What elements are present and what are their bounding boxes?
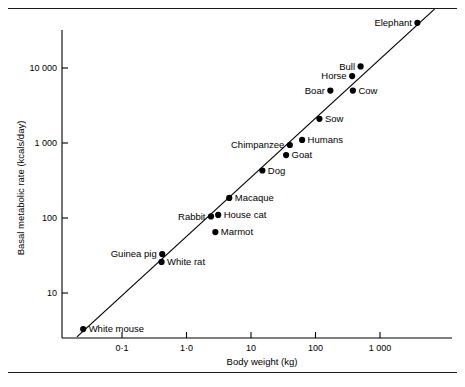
data-point-label: Horse [321, 70, 346, 81]
data-point-label: Boar [305, 85, 325, 96]
data-point-label: Dog [268, 165, 285, 176]
x-tick-label: 1 000 [369, 343, 392, 353]
data-point-label: Marmot [221, 226, 254, 237]
data-point: Boar [305, 85, 334, 96]
data-point-marker [226, 195, 232, 201]
data-point-label: White mouse [89, 323, 144, 334]
data-point: Goat [283, 149, 313, 160]
data-point: White rat [158, 256, 205, 267]
data-point-label: White rat [167, 256, 205, 267]
data-point-label: Bull [339, 61, 355, 72]
x-axis-title: Body weight (kg) [227, 356, 298, 367]
fit-line [77, 9, 435, 337]
data-point: Rabbit [178, 211, 214, 222]
data-point-label: Chimpanzee [231, 139, 284, 150]
x-tick-label: 0·1 [115, 343, 128, 353]
data-point-label: Sow [325, 113, 344, 124]
data-point-marker [159, 251, 165, 257]
y-tick-label: 10 [47, 288, 57, 298]
data-point-marker [158, 259, 164, 265]
data-point-label: Rabbit [178, 211, 206, 222]
y-axis-title: Basal metabolic rate (kcals/day) [15, 121, 26, 256]
data-point: Marmot [212, 226, 253, 237]
data-point-marker [283, 152, 289, 158]
data-point: Chimpanzee [231, 139, 293, 150]
data-point-marker [299, 137, 305, 143]
data-point-marker [259, 167, 265, 173]
data-point-marker [327, 87, 333, 93]
data-point-marker [80, 326, 86, 332]
x-tick-label: 10 [246, 343, 256, 353]
data-point-marker [208, 213, 214, 219]
figure-panel: 101001 00010 000 0·11·0101001 000 White … [0, 0, 465, 387]
data-point: White mouse [80, 323, 144, 334]
data-point: Cow [350, 85, 378, 96]
scatter-plot: 101001 00010 000 0·11·0101001 000 White … [0, 0, 465, 387]
data-point-marker [349, 73, 355, 79]
data-point: House cat [215, 209, 267, 220]
data-point-label: Goat [292, 149, 313, 160]
data-point-marker [350, 87, 356, 93]
data-point-marker [287, 142, 293, 148]
y-tick-label: 10 000 [29, 63, 57, 73]
data-point-marker [212, 229, 218, 235]
data-point-marker [357, 63, 363, 69]
data-point: Horse [321, 70, 355, 81]
x-axis-ticks: 0·11·0101001 000 [115, 332, 391, 353]
data-point-label: House cat [224, 209, 267, 220]
data-point-label: Guinea pig [111, 248, 157, 259]
data-point: Humans [299, 134, 343, 145]
data-point-label: Humans [308, 134, 344, 145]
data-point-label: Cow [358, 85, 377, 96]
x-tick-label: 100 [308, 343, 323, 353]
y-tick-label: 1 000 [34, 138, 57, 148]
data-point: Sow [316, 113, 343, 124]
x-tick-label: 1·0 [180, 343, 193, 353]
data-point: Elephant [374, 17, 420, 28]
y-tick-label: 100 [42, 213, 57, 223]
data-point: Bull [339, 61, 363, 72]
data-point-marker [316, 116, 322, 122]
axes-group [62, 30, 452, 338]
data-point-label: Elephant [374, 17, 412, 28]
data-point-marker [215, 212, 221, 218]
data-point-label: Macaque [235, 192, 274, 203]
data-point: Guinea pig [111, 248, 166, 259]
data-point-marker [414, 20, 420, 26]
regression-line [77, 9, 435, 337]
